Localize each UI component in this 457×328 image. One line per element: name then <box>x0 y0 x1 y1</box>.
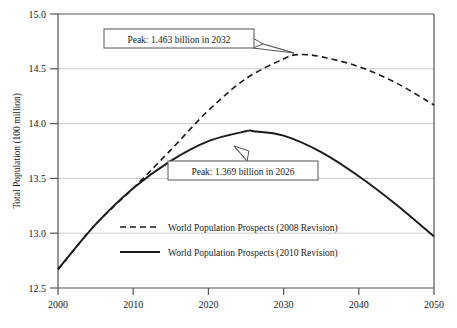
annotation-peak-2008: Peak: 1.463 billion in 2032 <box>104 29 294 53</box>
y-tick-label: 14.0 <box>29 118 47 129</box>
x-tick-label: 2050 <box>424 299 444 310</box>
y-tick-label: 13.5 <box>29 173 47 184</box>
x-axis-ticks <box>58 288 434 295</box>
annotation-label: Peak: 1.463 billion in 2032 <box>127 35 230 45</box>
legend-label-2008-revision: World Population Prospects (2008 Revisio… <box>168 223 338 234</box>
legend-label-2010-revision: World Population Prospects (2010 Revisio… <box>168 248 338 259</box>
y-tick-label: 12.5 <box>29 283 47 294</box>
x-tick-label: 2030 <box>274 299 294 310</box>
legend: World Population Prospects (2008 Revisio… <box>120 223 338 259</box>
y-axis-ticks <box>50 14 58 288</box>
y-tick-label: 14.5 <box>29 63 47 74</box>
y-tick-label: 15.0 <box>29 9 47 20</box>
y-tick-label: 13.0 <box>29 228 47 239</box>
chart-svg: 15.0 14.5 14.0 13.5 13.0 12.5 2000 2010 … <box>0 0 457 328</box>
x-tick-label: 2000 <box>48 299 68 310</box>
chart-figure: 15.0 14.5 14.0 13.5 13.0 12.5 2000 2010 … <box>0 0 457 328</box>
x-tick-label: 2020 <box>198 299 218 310</box>
annotation-peak-2010: Peak: 1.369 billion in 2026 <box>168 146 318 180</box>
x-tick-label: 2010 <box>123 299 143 310</box>
y-axis-title: Total Population (100 million) <box>12 93 23 209</box>
x-tick-label: 2040 <box>349 299 369 310</box>
annotation-label: Peak: 1.369 billion in 2026 <box>191 167 294 177</box>
